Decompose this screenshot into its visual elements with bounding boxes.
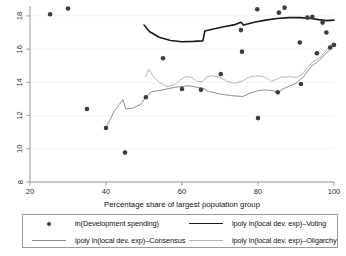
legend-entry-scatter: ln(Development spending) <box>23 215 180 232</box>
svg-text:100: 100 <box>328 187 341 196</box>
legend-key-dot-icon <box>23 222 75 226</box>
chart-legend: ln(Development spending) lpoly ln(local … <box>22 214 338 248</box>
legend-label-scatter: ln(Development spending) <box>75 219 159 228</box>
legend-label-consensus: lpoly ln(local dev. exp)–Consensus <box>75 236 185 245</box>
legend-row-1: ln(Development spending) lpoly ln(local … <box>23 215 337 232</box>
y-axis-tick-labels: 81012141618 <box>16 12 25 184</box>
legend-entry-consensus: lpoly ln(local dev. exp)–Consensus <box>23 232 180 249</box>
x-axis-tick-labels: 20406080100 <box>26 187 341 196</box>
svg-text:8: 8 <box>16 180 25 184</box>
svg-text:18: 18 <box>16 12 25 20</box>
legend-label-oligarchy: lpoly ln(local dev. exp)–Oligarchy <box>232 236 337 245</box>
svg-text:10: 10 <box>16 145 25 153</box>
gridlines <box>30 16 334 182</box>
svg-text:12: 12 <box>16 111 25 119</box>
x-axis-title: Percentage share of largest population g… <box>104 200 261 209</box>
svg-text:80: 80 <box>254 187 262 196</box>
chart-figure: 81012141618 20406080100 Percentage share… <box>0 0 346 256</box>
svg-text:40: 40 <box>102 187 110 196</box>
svg-text:20: 20 <box>26 187 34 196</box>
legend-row-2: lpoly ln(local dev. exp)–Consensus lpoly… <box>23 232 337 249</box>
legend-label-voting: lpoly ln(local dev. exp)–Voting <box>232 219 326 228</box>
legend-entry-oligarchy: lpoly ln(local dev. exp)–Oligarchy <box>180 232 337 249</box>
svg-text:14: 14 <box>16 78 25 86</box>
axes <box>27 6 335 186</box>
svg-text:16: 16 <box>16 45 25 53</box>
svg-text:60: 60 <box>178 187 186 196</box>
legend-key-oligarchy-line-icon <box>180 240 232 241</box>
svg-text:Percentage share of largest po: Percentage share of largest population g… <box>104 200 261 209</box>
scatter-points <box>48 5 336 154</box>
legend-entry-voting: lpoly ln(local dev. exp)–Voting <box>180 215 337 232</box>
legend-key-consensus-line-icon <box>23 240 75 241</box>
legend-key-voting-line-icon <box>180 223 232 224</box>
